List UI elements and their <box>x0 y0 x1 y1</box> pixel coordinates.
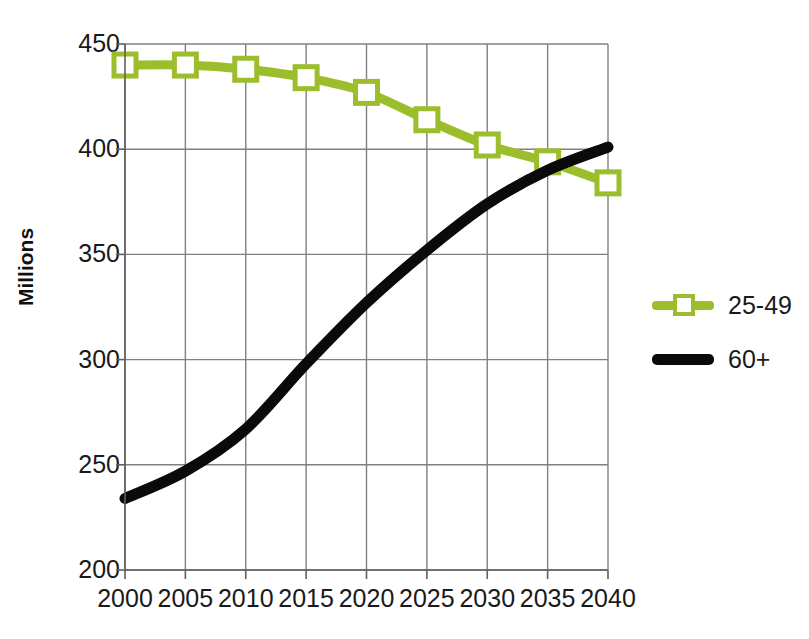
legend-item-25-49[interactable]: 25-49 <box>652 278 802 332</box>
data-point-marker <box>295 67 317 89</box>
data-point-marker <box>416 109 438 131</box>
data-point-marker <box>597 172 619 194</box>
chart-legend: 25-49 60+ <box>652 278 802 386</box>
data-point-marker <box>356 81 378 103</box>
chart-figure: Millions 450400350300250200 200020052010… <box>0 0 809 639</box>
data-point-marker <box>174 54 196 76</box>
legend-label-25-49: 25-49 <box>714 291 792 320</box>
legend-square-marker-icon <box>673 294 695 316</box>
legend-swatch-60-plus <box>652 344 714 374</box>
legend-line-icon-black <box>652 354 714 365</box>
data-point-marker <box>476 134 498 156</box>
data-point-marker <box>235 58 257 80</box>
legend-label-60-plus: 60+ <box>714 345 770 374</box>
legend-item-60-plus[interactable]: 60+ <box>652 332 802 386</box>
legend-swatch-25-49 <box>652 290 714 320</box>
